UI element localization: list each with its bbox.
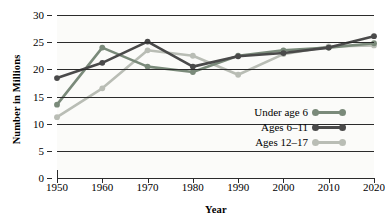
y-tick-label: 5 (39, 145, 45, 156)
y-tick-mark (47, 124, 52, 125)
legend-marker-right (339, 109, 346, 116)
y-tick-mark (47, 97, 52, 98)
y-tick-label: 15 (33, 91, 44, 102)
y-tick-label: 20 (33, 64, 44, 75)
x-tick-mark (329, 178, 330, 183)
data-point (235, 53, 241, 59)
x-axis-tick-labels: 19501960197019801990200020102020 (0, 181, 383, 201)
data-point (54, 75, 60, 81)
legend-label: Ages 6–11 (261, 122, 312, 133)
data-point (99, 85, 105, 91)
gridline (57, 97, 374, 98)
data-point (371, 33, 377, 39)
gridline (57, 69, 374, 70)
legend-marker-left (312, 139, 319, 146)
x-tick-mark (102, 178, 103, 183)
legend-swatch-ages-12-17 (312, 137, 346, 148)
legend-item: Under age 6 (196, 105, 346, 120)
y-tick-mark (47, 15, 52, 16)
legend-marker-right (339, 124, 346, 131)
series-line (57, 43, 374, 104)
data-point (235, 72, 241, 78)
x-tick-mark (148, 178, 149, 183)
series-ages-6-11 (54, 33, 377, 81)
x-axis-line (57, 178, 374, 179)
y-tick-label: 25 (33, 37, 44, 48)
x-tick-mark (57, 178, 58, 183)
data-point (326, 45, 332, 51)
data-point (190, 53, 196, 59)
legend-marker-left (312, 124, 319, 131)
legend-item: Ages 12–17 (196, 135, 346, 150)
legend-label: Under age 6 (254, 107, 312, 118)
gridline (57, 42, 374, 43)
legend-swatch-ages-6-11 (312, 122, 346, 133)
data-point (54, 102, 60, 108)
data-point (99, 45, 105, 51)
gridline (57, 15, 374, 16)
data-point (281, 50, 287, 56)
y-tick-mark (47, 151, 52, 152)
legend-swatch-under-age-6 (312, 107, 346, 118)
legend-item: Ages 6–11 (196, 120, 346, 135)
y-tick-label: 30 (33, 10, 44, 21)
data-point (99, 60, 105, 66)
data-point (145, 47, 151, 53)
y-tick-label: 10 (33, 118, 44, 129)
x-tick-mark (374, 178, 375, 183)
legend-label: Ages 12–17 (255, 137, 312, 148)
x-tick-mark (193, 178, 194, 183)
x-tick-mark (283, 178, 284, 183)
chart-legend: Under age 6 Ages 6–11 Ages 12–17 (196, 105, 346, 150)
x-axis-title: Year (56, 204, 376, 215)
legend-marker-right (339, 139, 346, 146)
x-tick-mark (238, 178, 239, 183)
y-axis-tick-labels: 051015202530 (0, 15, 52, 178)
data-point (54, 114, 60, 120)
gridline (57, 151, 374, 152)
plot-area (57, 15, 374, 178)
legend-marker-left (312, 109, 319, 116)
y-tick-mark (47, 69, 52, 70)
y-tick-mark (47, 178, 52, 179)
y-tick-mark (47, 42, 52, 43)
